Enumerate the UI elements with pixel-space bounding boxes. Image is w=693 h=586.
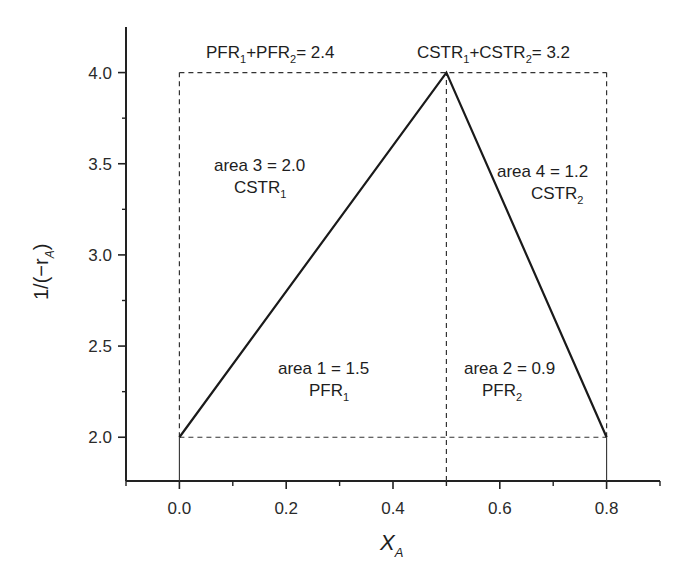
y-tick-label: 3.0 [88,246,112,265]
x-axis-title: XA [379,530,403,560]
y-axis-title: 1/(−rA) [30,244,57,300]
x-tick-label: 0.0 [168,499,192,518]
svg-text:area 4 = 1.2: area 4 = 1.2 [497,162,588,181]
x-tick-label: 0.8 [595,499,619,518]
data-line [179,73,606,438]
y-tick-label: 3.5 [88,155,112,174]
svg-text:area 2 = 0.9: area 2 = 0.9 [464,359,555,378]
svg-text:PFR2: PFR2 [482,381,522,403]
x-tick-label: 0.4 [381,499,405,518]
svg-text:PFR1: PFR1 [309,381,349,403]
area1-annotation: area 1 = 1.5 PFR1 [278,359,369,403]
x-tick-label: 0.6 [488,499,512,518]
guide-lines [179,73,606,481]
x-tick-label: 0.2 [274,499,298,518]
svg-text:CSTR1: CSTR1 [234,178,286,200]
cstr-total-annotation: CSTR1+CSTR2= 3.2 [417,43,570,65]
y-tick-label: 2.5 [88,337,112,356]
x-ticks [126,481,660,489]
area3-annotation: area 3 = 2.0 CSTR1 [214,156,305,200]
y-ticks [118,73,126,438]
svg-text:area 3 = 2.0: area 3 = 2.0 [214,156,305,175]
x-tick-labels: 0.00.20.40.60.8 [168,499,619,518]
y-tick-label: 2.0 [88,428,112,447]
area2-annotation: area 2 = 0.9 PFR2 [464,359,555,403]
svg-text:CSTR2: CSTR2 [531,184,583,206]
chart-canvas: 2.02.53.03.54.0 0.00.20.40.60.8 PFR1+PFR… [0,0,693,586]
area4-annotation: area 4 = 1.2 CSTR2 [497,162,588,206]
pfr-total-annotation: PFR1+PFR2= 2.4 [206,43,334,65]
y-tick-label: 4.0 [88,64,112,83]
y-tick-labels: 2.02.53.03.54.0 [88,64,112,448]
axes [118,27,660,489]
svg-text:area 1 = 1.5: area 1 = 1.5 [278,359,369,378]
